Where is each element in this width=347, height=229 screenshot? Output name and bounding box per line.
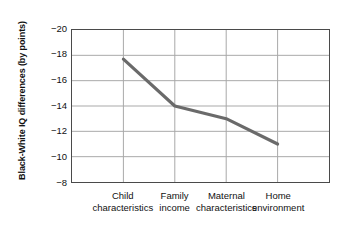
y-tick-label: −14 (33, 101, 67, 111)
y-tick-label: −18 (33, 49, 67, 59)
y-tick-label: −12 (33, 126, 67, 136)
x-tick-label-line2: environment (230, 202, 326, 214)
plot-area (71, 29, 330, 183)
y-tick-label: −16 (33, 75, 67, 85)
y-axis-title: Black-White IQ differences (by points) (18, 11, 27, 191)
chart-figure: Black-White IQ differences (by points) −… (0, 0, 347, 229)
horizontal-gridlines (72, 55, 329, 156)
y-tick-label: −10 (33, 152, 67, 162)
x-tick-label-line1: Home (230, 190, 326, 202)
y-tick-label: −8 (33, 178, 67, 188)
y-tick-label: −20 (33, 24, 67, 34)
x-tick-label: Home environment (230, 190, 326, 213)
x-axis-tick-labels: Child characteristics Family income Mate… (0, 190, 347, 228)
chart-canvas (72, 30, 329, 182)
